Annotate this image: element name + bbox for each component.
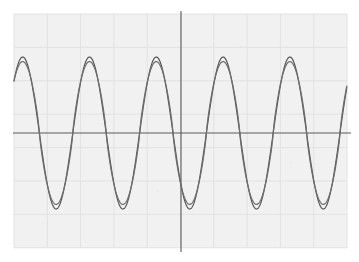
oscilloscope-waveform-display	[0, 0, 359, 262]
waveform-plot-svg	[0, 0, 359, 262]
